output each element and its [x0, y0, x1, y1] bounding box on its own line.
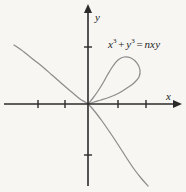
equation-right-hand-side: nxy	[144, 38, 160, 50]
y-axis-arrowhead	[84, 4, 92, 13]
folium-of-descartes-figure: x3+y3=nxy y x	[0, 0, 186, 192]
x-axis-arrowhead	[173, 100, 182, 108]
y-axis-label: y	[95, 12, 100, 23]
equation-plus-sign: +	[117, 38, 126, 50]
plot-canvas	[0, 0, 186, 192]
axis-layer	[4, 4, 182, 186]
equation-label: x3+y3=nxy	[108, 38, 160, 50]
curve-asymptotic-branch	[14, 45, 148, 186]
curve-layer	[14, 45, 148, 186]
x-axis-label: x	[166, 91, 171, 102]
equation-equals-sign: =	[135, 38, 144, 50]
curve-loop	[88, 57, 140, 104]
